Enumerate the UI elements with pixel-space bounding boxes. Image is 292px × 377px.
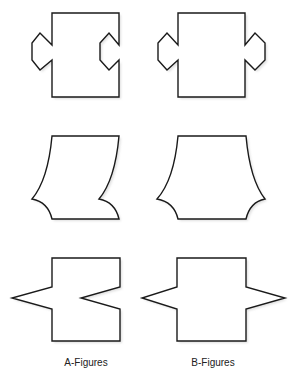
figure-a-row2-curved-cusps xyxy=(32,136,121,221)
figure-a-row1-hex-tab-notch xyxy=(32,13,121,99)
figure-b-row2-curved-cusps xyxy=(157,136,267,221)
figure-b-row3-spikes xyxy=(142,258,287,343)
figure-b-row1-hex-tabs xyxy=(158,13,267,99)
figure-a-row3-spike-notch xyxy=(12,258,122,343)
label-a-figures: A-Figures xyxy=(64,357,107,368)
figure-canvas xyxy=(0,0,292,377)
label-b-figures: B-Figures xyxy=(191,357,234,368)
